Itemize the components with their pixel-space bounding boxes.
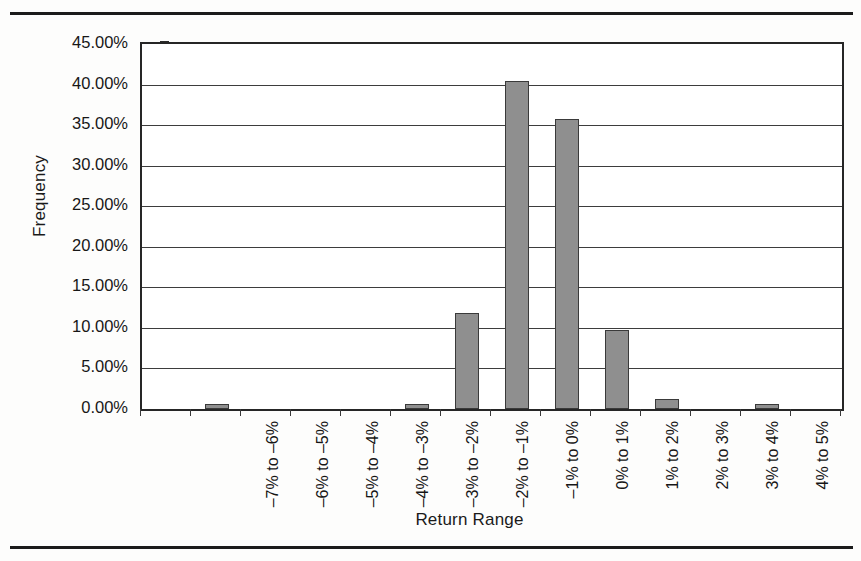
bar[interactable] [605, 330, 629, 409]
x-axis-tick-mark [490, 409, 491, 416]
y-axis-tick-label: 10.00% [30, 318, 128, 335]
bar-slot [292, 44, 342, 409]
x-axis-tick-mark [690, 409, 691, 416]
x-axis-tick-label: 4% to 5% [815, 421, 831, 513]
x-axis-tick-mark [840, 409, 841, 416]
x-axis-tick-label: 2% to 3% [715, 421, 731, 513]
y-axis-tick-label: 5.00% [30, 358, 128, 375]
bar-slot [342, 44, 392, 409]
y-axis-tick-label: 25.00% [30, 196, 128, 213]
bar-slot [242, 44, 292, 409]
bar[interactable] [505, 81, 529, 410]
x-axis-tick-label: –3% to –2% [465, 421, 481, 513]
bar-slot [592, 44, 642, 409]
y-axis-tick-label: 15.00% [30, 277, 128, 294]
x-axis-ticks [140, 409, 840, 417]
x-axis-tick-mark [540, 409, 541, 416]
chart-page: Frequency 0.00%5.00%10.00%15.00%20.00%25… [0, 0, 861, 561]
bar-slot [642, 44, 692, 409]
bar[interactable] [555, 119, 579, 409]
bar-slot [492, 44, 542, 409]
x-axis-tick-mark [240, 409, 241, 416]
x-axis-tick-label: 0% to 1% [615, 421, 631, 513]
histogram-chart: Frequency 0.00%5.00%10.00%15.00%20.00%25… [0, 18, 861, 543]
y-axis-tick-label: 35.00% [30, 115, 128, 132]
x-axis-tick-mark [340, 409, 341, 416]
x-axis-tick-mark [390, 409, 391, 416]
x-axis-tick-mark [640, 409, 641, 416]
x-axis-tick-label: –1% to 0% [565, 421, 581, 513]
bar-slot [792, 44, 842, 409]
y-axis-tick-label: 0.00% [30, 399, 128, 416]
x-axis-tick-labels: –7% to –6%–6% to –5%–5% to –4%–4% to –3%… [140, 417, 840, 509]
page-rule-top [10, 12, 853, 15]
x-axis-tick-label: –4% to –3% [415, 421, 431, 513]
x-axis-tick-mark [790, 409, 791, 416]
y-axis-tick-label: 30.00% [30, 155, 128, 172]
bar-slot [142, 44, 192, 409]
x-axis-tick-mark [740, 409, 741, 416]
x-axis-tick-label: 1% to 2% [665, 421, 681, 513]
bar-slot [192, 44, 242, 409]
y-axis-tick-labels: 0.00%5.00%10.00%15.00%20.00%25.00%30.00%… [30, 42, 128, 407]
x-axis-tick-label: –2% to –1% [515, 421, 531, 513]
x-axis-tick-label: –7% to –6% [265, 421, 281, 513]
x-axis-tick-label: 3% to 4% [765, 421, 781, 513]
y-axis-tick-label: 40.00% [30, 74, 128, 91]
page-rule-bottom [10, 546, 853, 549]
bar-slot [742, 44, 792, 409]
bar-slot [692, 44, 742, 409]
x-axis-tick-mark [440, 409, 441, 416]
x-axis-title: Return Range [0, 510, 861, 530]
x-axis-tick-mark [190, 409, 191, 416]
bar-slot [542, 44, 592, 409]
x-axis-tick-label: –6% to –5% [315, 421, 331, 513]
bar[interactable] [455, 313, 479, 409]
x-axis-tick-mark [590, 409, 591, 416]
x-axis-tick-mark [290, 409, 291, 416]
x-axis-tick-mark [140, 409, 141, 416]
y-axis-tick-label: 20.00% [30, 237, 128, 254]
bar-slot [392, 44, 442, 409]
bar-slot [442, 44, 492, 409]
plot-area [140, 42, 844, 411]
y-axis-tick-label: 45.00% [30, 34, 128, 51]
x-axis-tick-label: –5% to –4% [365, 421, 381, 513]
bar-series [142, 44, 842, 409]
bar[interactable] [655, 399, 679, 409]
